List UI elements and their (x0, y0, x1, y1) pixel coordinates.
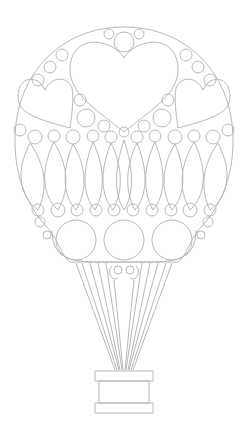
ropes (76, 263, 172, 370)
hot-air-balloon-drawing (0, 0, 248, 423)
top-circles (14, 29, 234, 136)
scroll-ornament (110, 266, 139, 279)
lower-big-circles (52, 220, 196, 262)
center-heart-icon (70, 42, 178, 132)
balloon-envelope-outline (15, 27, 233, 262)
gore-panels (21, 140, 227, 210)
lower-circle-band (32, 203, 216, 239)
basket (95, 371, 153, 413)
